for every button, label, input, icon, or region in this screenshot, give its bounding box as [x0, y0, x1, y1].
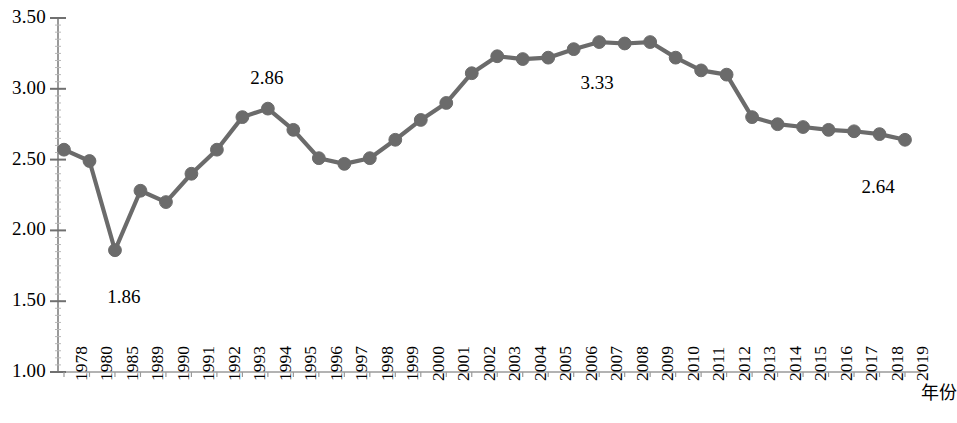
x-axis-tick-label: 2009: [657, 346, 678, 381]
x-axis-tick-label: 1990: [173, 346, 194, 381]
data-point-marker: [160, 196, 173, 209]
x-axis-tick-label: 2015: [810, 346, 831, 381]
data-point-marker: [797, 121, 810, 134]
data-point-marker: [618, 37, 631, 50]
data-point-marker: [720, 68, 733, 81]
x-axis-tick-label: 2017: [861, 346, 882, 381]
x-axis-tick-label: 2012: [734, 346, 755, 381]
data-point-marker: [211, 143, 224, 156]
x-axis-tick-label: 2010: [683, 346, 704, 381]
data-point-annotation: 2.86: [244, 67, 290, 89]
data-point-marker: [338, 157, 351, 170]
x-axis-tick-label: 2014: [785, 346, 806, 381]
x-axis-tick-label: 1993: [249, 346, 270, 381]
data-point-marker: [414, 114, 427, 127]
data-point-marker: [185, 167, 198, 180]
data-point-marker: [669, 51, 682, 64]
x-axis-tick-label: 1994: [275, 346, 296, 381]
x-axis-tick-label: 2019: [912, 346, 933, 381]
data-point-annotation: 1.86: [101, 286, 147, 308]
x-axis-tick-label: 2005: [555, 346, 576, 381]
data-point-marker: [873, 128, 886, 141]
data-point-annotation: 2.64: [855, 176, 901, 198]
y-axis-tick-label: 1.00: [0, 360, 46, 382]
x-axis-tick-label: 1978: [71, 346, 92, 381]
y-axis-tick-label: 3.00: [0, 77, 46, 99]
x-axis-tick-label: 2006: [581, 346, 602, 381]
x-axis-tick-label: 2001: [453, 346, 474, 381]
data-point-marker: [848, 125, 861, 138]
data-point-marker: [261, 102, 274, 115]
data-point-marker: [542, 51, 555, 64]
x-axis-tick-label: 2018: [887, 346, 908, 381]
x-axis-tick-label: 2013: [759, 346, 780, 381]
x-axis-title: 年份: [921, 378, 957, 404]
x-axis-tick-label: 1996: [326, 346, 347, 381]
x-axis-tick-label: 2000: [428, 346, 449, 381]
data-point-marker: [491, 50, 504, 63]
x-axis-tick-label: 2016: [836, 346, 857, 381]
data-point-marker: [644, 36, 657, 49]
x-axis-tick-label: 1991: [198, 346, 219, 381]
x-axis-tick-label: 2008: [632, 346, 653, 381]
data-point-marker: [771, 118, 784, 131]
x-axis-tick-label: 1989: [147, 346, 168, 381]
x-axis-tick-label: 2004: [530, 346, 551, 381]
x-axis-tick-label: 1985: [122, 346, 143, 381]
data-point-marker: [746, 111, 759, 124]
x-axis-tick-label: 1992: [224, 346, 245, 381]
x-axis-tick-label: 2011: [708, 347, 729, 381]
data-point-marker: [593, 36, 606, 49]
data-point-marker: [440, 97, 453, 110]
y-axis-tick-label: 3.50: [0, 6, 46, 28]
data-point-marker: [134, 184, 147, 197]
data-point-marker: [287, 123, 300, 136]
x-axis-tick-label: 1998: [377, 346, 398, 381]
y-axis-tick-label: 1.50: [0, 289, 46, 311]
y-axis-tick-label: 2.50: [0, 148, 46, 170]
data-point-annotation: 3.33: [574, 72, 620, 94]
data-point-marker: [236, 111, 249, 124]
x-axis-tick-label: 1980: [96, 346, 117, 381]
data-point-marker: [83, 155, 96, 168]
data-point-marker: [109, 244, 122, 257]
data-point-marker: [58, 143, 71, 156]
data-point-marker: [389, 133, 402, 146]
x-axis-tick-label: 2003: [504, 346, 525, 381]
x-axis-tick-label: 1999: [402, 346, 423, 381]
x-axis-tick-label: 2007: [606, 346, 627, 381]
data-point-marker: [312, 152, 325, 165]
data-point-marker: [363, 152, 376, 165]
y-axis-tick-label: 2.00: [0, 218, 46, 240]
data-point-marker: [516, 53, 529, 66]
data-point-marker: [465, 67, 478, 80]
x-axis-tick-label: 1995: [300, 346, 321, 381]
data-point-marker: [822, 123, 835, 136]
data-point-marker: [695, 64, 708, 77]
data-point-marker: [567, 43, 580, 56]
x-axis-tick-label: 2002: [479, 346, 500, 381]
data-series-line: [64, 42, 905, 250]
x-axis-tick-label: 1997: [351, 346, 372, 381]
data-point-marker: [899, 133, 912, 146]
